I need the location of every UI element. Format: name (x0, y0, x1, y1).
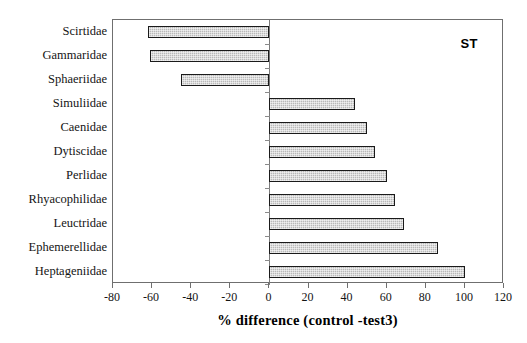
bar-perlidae (269, 170, 386, 182)
y-tick-label-scirtidae: Scirtidae (63, 24, 107, 39)
x-tick (229, 283, 230, 288)
x-tick-label: 20 (302, 290, 314, 305)
x-tick (347, 283, 348, 288)
y-tick-label-caenidae: Caenidae (60, 120, 107, 135)
bar-rhyacophilidae (269, 194, 394, 206)
x-tick-label: 100 (455, 290, 473, 305)
y-tick-label-dytiscidae: Dytiscidae (54, 144, 107, 159)
y-tick-label-heptageniidae: Heptageniidae (35, 264, 107, 279)
bar-gammaridae (150, 50, 269, 62)
bar-simuliidae (269, 98, 355, 110)
bar-caenidae (269, 122, 367, 134)
x-tick-label: 80 (419, 290, 431, 305)
y-tick-label-simuliidae: Simuliidae (53, 96, 107, 111)
panel-label: ST (460, 36, 478, 51)
x-tick-label: 60 (380, 290, 392, 305)
bar-row (113, 92, 502, 116)
x-tick-label: 120 (494, 290, 512, 305)
bar-row (113, 116, 502, 140)
y-axis-category-labels: ScirtidaeGammaridaeSphaeriidaeSimuliidae… (0, 19, 107, 283)
bar-leuctridae (269, 218, 404, 230)
bar-row (113, 236, 502, 260)
bar-chart-figure: ScirtidaeGammaridaeSphaeriidaeSimuliidae… (0, 0, 527, 343)
bar-sphaeriidae (181, 74, 269, 86)
x-tick (151, 283, 152, 288)
x-tick (268, 283, 269, 288)
bar-ephemerellidae (269, 242, 437, 254)
x-axis: -80-60-40-20020406080100120 % difference… (112, 283, 503, 343)
x-tick-label: -80 (104, 290, 120, 305)
x-tick (190, 283, 191, 288)
x-tick (464, 283, 465, 288)
x-tick (503, 283, 504, 288)
x-tick (386, 283, 387, 288)
bar-dytiscidae (269, 146, 375, 158)
y-tick-label-perlidae: Perlidae (66, 168, 107, 183)
bar-row (113, 44, 502, 68)
x-tick-label: -20 (221, 290, 237, 305)
plot-area: ST (112, 19, 503, 283)
bar-scirtidae (148, 26, 269, 38)
bar-row (113, 260, 502, 284)
bar-row (113, 188, 502, 212)
bar-heptageniidae (269, 266, 465, 278)
bar-row (113, 68, 502, 92)
x-tick-label: 40 (341, 290, 353, 305)
x-tick (425, 283, 426, 288)
y-tick-label-ephemerellidae: Ephemerellidae (29, 240, 107, 255)
bar-row (113, 212, 502, 236)
y-tick-label-sphaeriidae: Sphaeriidae (48, 72, 107, 87)
bar-row (113, 164, 502, 188)
x-tick-label: -60 (143, 290, 159, 305)
y-tick-label-gammaridae: Gammaridae (42, 48, 107, 63)
bar-row (113, 140, 502, 164)
x-tick (112, 283, 113, 288)
x-tick-label: -40 (182, 290, 198, 305)
x-tick-label: 0 (265, 290, 271, 305)
bar-row (113, 20, 502, 44)
x-axis-title: % difference (control -test3) (112, 312, 503, 329)
x-tick (308, 283, 309, 288)
y-tick-label-rhyacophilidae: Rhyacophilidae (29, 192, 107, 207)
y-tick-label-leuctridae: Leuctridae (54, 216, 107, 231)
